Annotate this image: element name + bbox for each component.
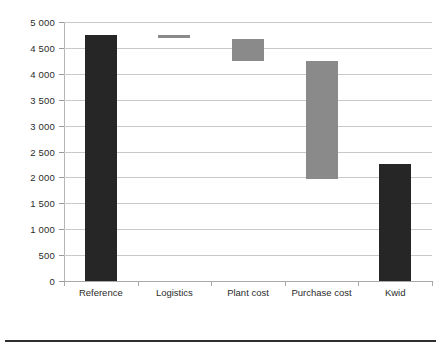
gridline bbox=[64, 152, 432, 153]
bar-plant-cost bbox=[232, 39, 264, 61]
y-axis-tick-label: 3 500 bbox=[30, 94, 55, 105]
y-axis-tick-label: 500 bbox=[39, 250, 55, 261]
waterfall-chart-figure: 05001 0001 5002 0002 5003 0003 5004 0004… bbox=[0, 0, 441, 350]
x-axis-tick-label: Kwid bbox=[385, 287, 406, 298]
y-tick-mark bbox=[59, 22, 64, 23]
x-axis-tick-label: Purchase cost bbox=[291, 287, 351, 298]
gridline bbox=[64, 203, 432, 204]
y-axis-tick-label: 5 000 bbox=[30, 17, 55, 28]
x-tick-mark bbox=[285, 281, 286, 286]
gridline bbox=[64, 22, 432, 23]
gridline bbox=[64, 100, 432, 101]
bar-kwid bbox=[379, 164, 411, 281]
y-axis-tick-label: 4 000 bbox=[30, 68, 55, 79]
x-tick-mark bbox=[432, 281, 433, 286]
gridline bbox=[64, 229, 432, 230]
y-axis-tick-label: 3 000 bbox=[30, 120, 55, 131]
bar-logistics bbox=[158, 35, 190, 38]
bar-purchase-cost bbox=[306, 61, 338, 179]
gridline bbox=[64, 281, 432, 282]
y-tick-mark bbox=[59, 74, 64, 75]
y-axis-tick-label: 4 500 bbox=[30, 42, 55, 53]
y-tick-mark bbox=[59, 126, 64, 127]
y-tick-mark bbox=[59, 152, 64, 153]
x-axis-tick-label: Plant cost bbox=[227, 287, 269, 298]
gridline bbox=[64, 177, 432, 178]
x-axis-tick-label: Reference bbox=[79, 287, 123, 298]
bottom-rule-divider bbox=[5, 340, 436, 342]
y-axis-tick-label: 1 500 bbox=[30, 198, 55, 209]
x-tick-mark bbox=[64, 281, 65, 286]
y-axis-tick-label: 0 bbox=[50, 276, 55, 287]
x-axis-labels-group: ReferenceLogisticsPlant costPurchase cos… bbox=[64, 287, 432, 309]
plot-area: 05001 0001 5002 0002 5003 0003 5004 0004… bbox=[64, 22, 432, 281]
gridline bbox=[64, 126, 432, 127]
y-tick-mark bbox=[59, 255, 64, 256]
x-tick-mark bbox=[358, 281, 359, 286]
y-axis-tick-label: 2 500 bbox=[30, 146, 55, 157]
gridline bbox=[64, 74, 432, 75]
gridline bbox=[64, 255, 432, 256]
x-axis-tick-label: Logistics bbox=[156, 287, 193, 298]
y-tick-mark bbox=[59, 229, 64, 230]
y-axis-tick-label: 2 000 bbox=[30, 172, 55, 183]
y-tick-mark bbox=[59, 100, 64, 101]
x-tick-mark bbox=[138, 281, 139, 286]
y-tick-mark bbox=[59, 177, 64, 178]
bar-reference bbox=[85, 35, 117, 281]
y-tick-mark bbox=[59, 48, 64, 49]
y-axis-tick-label: 1 000 bbox=[30, 224, 55, 235]
x-tick-mark bbox=[211, 281, 212, 286]
y-tick-mark bbox=[59, 203, 64, 204]
